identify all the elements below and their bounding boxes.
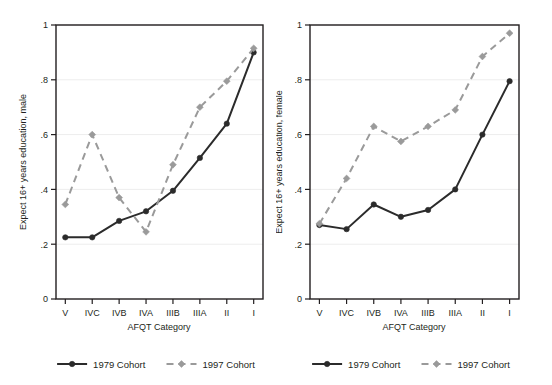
x-axis-title-male: AFQT Category [128,322,191,332]
x-tick-label-IVA: IVA [139,308,153,318]
plot-frame-female [310,25,519,299]
y-axis-ticks-male: 0.2.4.6.81 [40,20,56,304]
y-tick-label: .4 [40,185,48,195]
x-tick-label-V: V [62,308,68,318]
legend-label-1979-cohort: 1979 Cohort [348,359,401,370]
x-tick-label-II: II [480,308,485,318]
y-tick-label: 1 [297,20,302,30]
x-tick-label-IIIB: IIIB [166,308,180,318]
y-axis-title-female: Expect 16+ years education, female [276,90,284,233]
y-tick-label: .6 [40,130,48,140]
data-point-marker [170,188,175,193]
x-tick-label-IIIB: IIIB [421,308,435,318]
x-axis-ticks-male: VIVCIVBIVAIIIBIIIAIII [62,299,255,318]
y-axis-title-male: Expect 16+ years education, male [18,94,28,230]
legend-male: 1979 Cohort1997 Cohort [57,359,255,370]
data-point-marker [197,155,202,160]
y-tick-label: 0 [297,294,302,304]
data-point-marker [425,207,430,212]
data-point-marker [89,131,96,138]
x-tick-label-IVB: IVB [366,308,381,318]
x-tick-label-I: I [252,308,255,318]
plot-frame-male [56,25,263,299]
y-tick-label: .2 [294,240,302,250]
x-tick-label-IVB: IVB [112,308,127,318]
data-point-marker [507,78,512,83]
data-point-marker [143,209,148,214]
x-tick-label-IVC: IVC [85,308,101,318]
data-point-marker [371,202,376,207]
data-point-marker [63,235,68,240]
y-tick-label: .8 [294,75,302,85]
y-tick-label: 0 [43,294,48,304]
data-point-marker [398,214,403,219]
x-tick-label-IVA: IVA [394,308,408,318]
x-tick-label-IVC: IVC [339,308,355,318]
panel-female-canvas: 0.2.4.6.81 VIVCIVBIVAIIIBIIIAIII Expect … [276,0,552,385]
data-point-marker [480,132,485,137]
legend-label-1979-cohort: 1979 Cohort [93,359,146,370]
plot-box-border [56,25,263,299]
y-tick-label: .4 [294,185,302,195]
data-point-marker [453,187,458,192]
x-tick-label-IIIA: IIIA [193,308,207,318]
y-tick-label: .6 [294,130,302,140]
data-point-marker [170,161,177,168]
gridlines-male [56,25,263,244]
panel-male-canvas: 0.2.4.6.81 VIVCIVBIVAIIIBIIIAIII Expect … [0,0,276,385]
data-point-marker [116,218,121,223]
panel-male: 0.2.4.6.81 VIVCIVBIVAIIIBIIIAIII Expect … [0,0,276,385]
data-point-marker [224,121,229,126]
data-point-marker [506,30,513,37]
legend-marker [69,361,74,366]
plot-box-border [310,25,519,299]
figure-two-panel-line-chart: 0.2.4.6.81 VIVCIVBIVAIIIBIIIAIII Expect … [0,0,552,385]
series-lines-female [316,30,513,232]
y-axis-ticks-female: 0.2.4.6.81 [294,20,310,304]
data-point-marker [90,235,95,240]
x-axis-ticks-female: VIVCIVBIVAIIIBIIIAIII [316,299,510,318]
x-axis-title-female: AFQT Category [383,322,446,332]
y-tick-label: .8 [40,75,48,85]
legend-label-1997-cohort: 1997 Cohort [203,359,256,370]
x-tick-label-II: II [224,308,229,318]
panel-female: 0.2.4.6.81 VIVCIVBIVAIIIBIIIAIII Expect … [276,0,552,385]
legend-label-1997-cohort: 1997 Cohort [458,359,511,370]
data-point-marker [452,107,459,114]
x-tick-label-I: I [508,308,511,318]
legend-marker [178,361,185,368]
series-line-1997-cohort [319,33,509,223]
series-lines-male [62,45,257,240]
legend-marker [433,361,440,368]
legend-female: 1979 Cohort1997 Cohort [312,359,510,370]
data-point-marker [62,201,69,208]
x-tick-label-IIIA: IIIA [448,308,462,318]
y-tick-label: .2 [40,240,48,250]
legend-marker [324,361,329,366]
data-point-marker [344,226,349,231]
series-line-1979-cohort [319,81,509,229]
x-tick-label-V: V [316,308,322,318]
y-tick-label: 1 [43,20,48,30]
series-line-1997-cohort [65,48,253,232]
